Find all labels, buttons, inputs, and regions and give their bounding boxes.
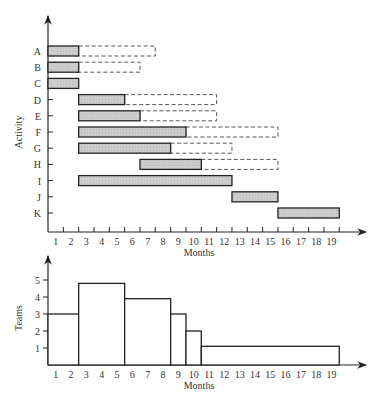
activity-bar [79,95,125,105]
y-tick-label: 5 [35,275,40,286]
activity-label: I [38,176,41,187]
y-tick-label: 3 [35,309,40,320]
x-tick-label: 16 [281,236,291,247]
x-tick-label: 6 [130,236,135,247]
x-tick-label: 3 [84,236,89,247]
slack-bar [125,95,217,105]
y-tick-label: 2 [35,326,40,337]
activity-bar [79,127,186,137]
slack-bar [140,111,217,121]
x-tick-label: 18 [311,236,321,247]
y-axis-title: Activity [13,116,24,149]
y-axis-title: Teams [13,305,24,331]
x-tick-label: 17 [296,236,306,247]
activity-bar [278,208,339,218]
x-tick-label: 19 [327,236,337,247]
x-tick-label: 8 [160,236,165,247]
x-tick-label: 4 [99,236,104,247]
gantt-chart: 12345678910111213141516171819MonthsActiv… [13,16,366,258]
x-tick-label: 7 [145,236,150,247]
x-axis-title: Months [184,247,215,258]
x-tick-label: 6 [130,369,135,380]
teams-step [171,314,186,365]
x-tick-label: 17 [296,369,306,380]
activity-label: K [34,208,42,219]
x-tick-label: 2 [68,236,73,247]
teams-step [48,314,79,365]
activity-bar [79,143,171,153]
teams-step [79,283,125,365]
x-tick-label: 16 [281,369,291,380]
teams-step [125,299,171,365]
x-tick-label: 4 [99,369,104,380]
x-tick-label: 10 [189,236,199,247]
teams-step [201,346,339,365]
teams-step [186,331,201,365]
x-tick-label: 19 [327,369,337,380]
x-tick-label: 18 [311,369,321,380]
x-tick-label: 14 [250,369,260,380]
x-tick-label: 15 [265,236,275,247]
x-tick-label: 12 [219,236,229,247]
x-axis-title: Months [184,380,215,391]
activity-label: A [34,46,42,57]
x-tick-label: 9 [176,236,181,247]
activity-bar [48,62,79,72]
x-tick-label: 12 [219,369,229,380]
x-tick-label: 5 [114,369,119,380]
slack-bar [186,127,278,137]
activity-bar [79,176,232,186]
x-tick-label: 15 [265,369,275,380]
activity-bar [79,111,140,121]
x-tick-label: 8 [160,369,165,380]
slack-bar [201,159,278,169]
x-tick-label: 1 [53,369,58,380]
activity-label: B [34,62,41,73]
activity-label: D [34,95,41,106]
activity-label: G [34,143,41,154]
activity-bar [48,46,79,56]
slack-bar [79,62,140,72]
activity-label: E [35,111,41,122]
x-tick-label: 5 [114,236,119,247]
x-tick-label: 14 [250,236,260,247]
slack-bar [79,46,156,56]
activity-bar [140,159,201,169]
activity-bar [232,192,278,202]
x-tick-label: 2 [68,369,73,380]
teams-histogram: 1234512345678910111213141516171819Months… [13,256,366,391]
x-tick-label: 7 [145,369,150,380]
x-tick-label: 10 [189,369,199,380]
x-tick-label: 9 [176,369,181,380]
x-tick-label: 13 [235,236,245,247]
chart-canvas: 12345678910111213141516171819MonthsActiv… [0,0,389,413]
x-tick-label: 13 [235,369,245,380]
y-tick-label: 1 [35,343,40,354]
activity-label: H [34,159,41,170]
x-tick-label: 3 [84,369,89,380]
activity-label: C [34,78,41,89]
activity-label: J [37,192,41,203]
x-tick-label: 1 [53,236,58,247]
activity-bar [48,78,79,88]
slack-bar [171,143,232,153]
x-tick-label: 11 [204,369,214,380]
x-tick-label: 11 [204,236,214,247]
activity-label: F [35,127,41,138]
y-tick-label: 4 [35,292,40,303]
